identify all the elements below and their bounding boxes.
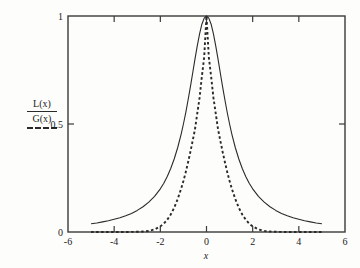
y-tick-label: 0.5 (51, 119, 64, 130)
x-tick-label: 0 (204, 236, 209, 247)
y-tick-label: 1 (58, 11, 63, 22)
series-path-gx (91, 16, 322, 232)
y-tick-label: 0 (58, 227, 63, 238)
plot-frame (68, 16, 345, 232)
x-tick-label: 6 (343, 236, 348, 247)
x-tick-marks (114, 16, 299, 232)
x-tick-labels: -6-4-20246 (64, 236, 348, 247)
data-series (91, 16, 322, 232)
chart-svg: -6-4-20246 00.51 x (0, 0, 360, 268)
figure-page: L(x) G(x) -6-4-20246 00.51 x (0, 0, 360, 268)
x-tick-label: -4 (110, 236, 118, 247)
y-tick-labels: 00.51 (51, 11, 64, 238)
x-tick-label: 2 (250, 236, 255, 247)
x-tick-label: -6 (64, 236, 72, 247)
series-path-lx (91, 16, 322, 224)
x-tick-label: 4 (296, 236, 301, 247)
axes-box (68, 16, 345, 232)
x-tick-label: -2 (156, 236, 164, 247)
x-axis-label: x (203, 250, 209, 261)
